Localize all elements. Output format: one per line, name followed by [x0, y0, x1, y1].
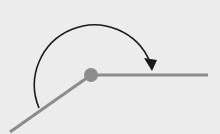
lower-left-ray	[10, 75, 91, 132]
vertex-point	[84, 68, 98, 82]
angle-diagram	[0, 0, 220, 134]
arrowhead-icon	[144, 58, 157, 71]
angle-arc	[34, 25, 150, 108]
angle-figure	[0, 0, 220, 134]
